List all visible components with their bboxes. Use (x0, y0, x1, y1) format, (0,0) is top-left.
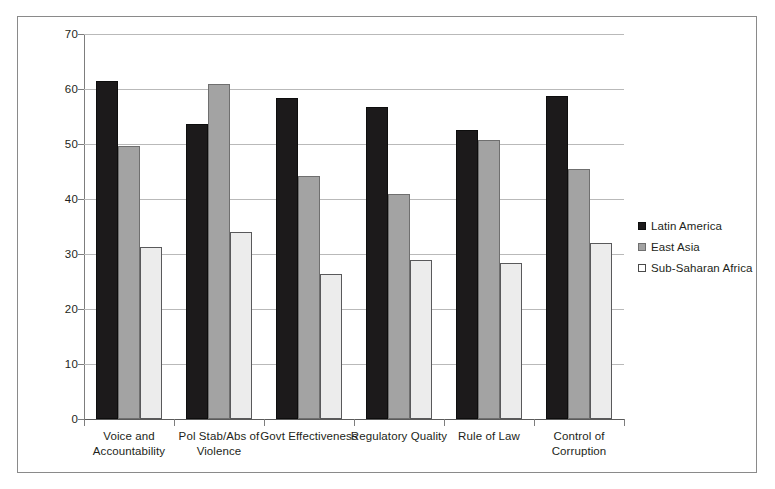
x-axis-category-label-line: Violence (168, 444, 270, 459)
x-axis-tick-mark (444, 419, 445, 426)
y-axis-tick-label: 70 (38, 28, 78, 40)
chart-legend: Latin AmericaEast AsiaSub-Saharan Africa (638, 215, 758, 278)
bars-layer (84, 34, 624, 419)
legend-item-label: East Asia (651, 241, 700, 253)
bar[interactable] (230, 232, 252, 419)
x-axis-category-label-line: Accountability (78, 444, 180, 459)
bar-group (276, 34, 342, 419)
x-axis-category-label: Rule of Law (438, 429, 540, 444)
bar[interactable] (388, 194, 410, 420)
bar-group (96, 34, 162, 419)
legend-item-label: Latin America (651, 220, 722, 232)
y-axis-tick-mark (78, 144, 84, 145)
legend-swatch-icon (638, 264, 646, 272)
bar-group (366, 34, 432, 419)
legend-swatch-icon (638, 222, 646, 230)
x-axis-category-label-line: Rule of Law (438, 429, 540, 444)
x-axis-category-label: Govt Effectiveness (258, 429, 360, 444)
y-axis-tick-label: 20 (38, 303, 78, 315)
x-axis-category-label: Regulatory Quality (348, 429, 450, 444)
bar-group (456, 34, 522, 419)
bar[interactable] (500, 263, 522, 419)
x-axis-ticks (84, 419, 624, 427)
bar[interactable] (96, 81, 118, 419)
x-axis-tick-mark (264, 419, 265, 426)
x-axis-category-label: Pol Stab/Abs ofViolence (168, 429, 270, 459)
bar[interactable] (546, 96, 568, 419)
y-axis-tick-label: 0 (38, 413, 78, 425)
x-axis-tick-mark (354, 419, 355, 426)
x-axis-tick-mark (174, 419, 175, 426)
bar[interactable] (140, 247, 162, 419)
bar[interactable] (298, 176, 320, 419)
x-axis-category-label-line: Control of (528, 429, 630, 444)
plot-wrapper: 706050403020100 Voice andAccountabilityP… (18, 17, 756, 472)
bar[interactable] (118, 146, 140, 419)
x-axis-category-label-line: Corruption (528, 444, 630, 459)
x-axis-tick-mark (624, 419, 625, 426)
y-axis-tick-labels: 706050403020100 (32, 34, 78, 419)
x-axis-category-label-line: Pol Stab/Abs of (168, 429, 270, 444)
x-axis-category-label: Voice andAccountability (78, 429, 180, 459)
bar[interactable] (320, 274, 342, 419)
bar[interactable] (478, 140, 500, 419)
y-axis-tick-label: 30 (38, 248, 78, 260)
bar[interactable] (276, 98, 298, 419)
bar-group (546, 34, 612, 419)
y-axis-tick-mark (78, 309, 84, 310)
x-axis-category-label: Control ofCorruption (528, 429, 630, 459)
plot-area (84, 34, 624, 419)
bar[interactable] (366, 107, 388, 419)
y-axis-tick-mark (78, 34, 84, 35)
y-axis-tick-label: 10 (38, 358, 78, 370)
x-axis-tick-mark (534, 419, 535, 426)
y-axis-tick-mark (78, 89, 84, 90)
y-axis-tick-mark (78, 419, 84, 420)
x-axis-category-label-line: Regulatory Quality (348, 429, 450, 444)
bar[interactable] (186, 124, 208, 419)
legend-item[interactable]: Sub-Saharan Africa (638, 257, 758, 278)
x-axis-labels: Voice andAccountabilityPol Stab/Abs ofVi… (84, 429, 624, 473)
legend-item[interactable]: East Asia (638, 236, 758, 257)
bar[interactable] (208, 84, 230, 419)
x-axis-category-label-line: Voice and (78, 429, 180, 444)
y-axis-tick-label: 40 (38, 193, 78, 205)
legend-swatch-icon (638, 243, 646, 251)
bar[interactable] (568, 169, 590, 419)
y-axis-tick-mark (78, 364, 84, 365)
chart-frame: 706050403020100 Voice andAccountabilityP… (17, 16, 757, 473)
bar-group (186, 34, 252, 419)
x-axis-tick-mark (84, 419, 85, 426)
bar[interactable] (410, 260, 432, 419)
legend-item-label: Sub-Saharan Africa (651, 262, 753, 274)
y-axis-tick-mark (78, 254, 84, 255)
legend-item[interactable]: Latin America (638, 215, 758, 236)
y-axis-tick-label: 60 (38, 83, 78, 95)
y-axis-tick-label: 50 (38, 138, 78, 150)
bar[interactable] (456, 130, 478, 419)
x-axis-category-label-line: Govt Effectiveness (258, 429, 360, 444)
y-axis-tick-mark (78, 199, 84, 200)
bar[interactable] (590, 243, 612, 419)
